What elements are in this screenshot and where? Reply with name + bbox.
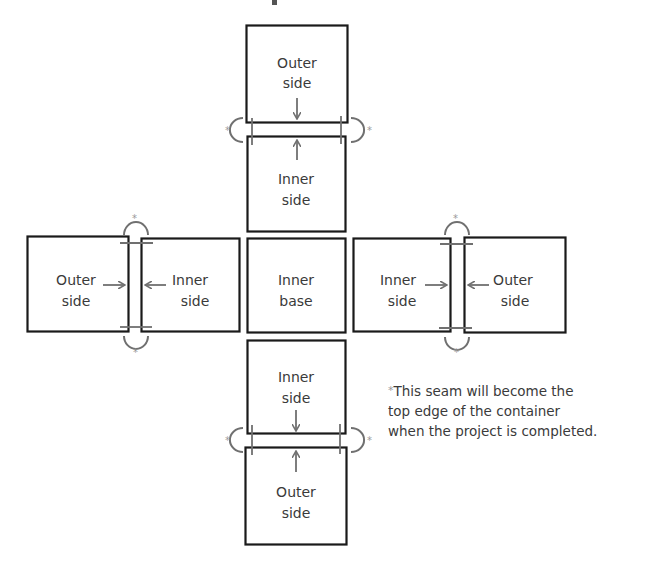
- panel-label: side: [282, 505, 311, 521]
- asterisk-marker: *: [132, 213, 137, 224]
- asterisk-marker: *: [453, 213, 458, 224]
- footnote-text: This seam will become the: [394, 383, 574, 399]
- panel-label: base: [279, 293, 312, 309]
- panel-label: Inner: [278, 272, 314, 288]
- title-fragment: [200, 0, 370, 5]
- panel-label: Outer: [276, 484, 316, 500]
- footnote-line-2: top edge of the container: [388, 401, 647, 421]
- panel-label: side: [501, 293, 530, 309]
- asterisk-marker: *: [367, 125, 372, 136]
- panel-label: side: [283, 75, 312, 91]
- footnote-line-1: *This seam will become the: [388, 381, 647, 401]
- panel-center-base: Inner base: [248, 239, 346, 333]
- panel-label: side: [181, 293, 210, 309]
- panel-label: side: [388, 293, 417, 309]
- panel-label: Outer: [56, 272, 96, 288]
- panel-label: Inner: [278, 171, 314, 187]
- panel-label: Outer: [277, 55, 317, 71]
- footnote-line-3: when the project is completed.: [388, 421, 647, 441]
- asterisk-marker: *: [225, 125, 230, 136]
- panel-label: Outer: [493, 272, 533, 288]
- panel-label: Inner: [278, 369, 314, 385]
- box-net-diagram: Outer side Inner side * * Outer side Inn…: [0, 0, 647, 575]
- panel-label: side: [62, 293, 91, 309]
- panel-left-outer: Outer side: [28, 237, 129, 332]
- panel-label: Inner: [380, 272, 416, 288]
- panel-label: Inner: [172, 272, 208, 288]
- footnote: *This seam will become the top edge of t…: [388, 381, 647, 441]
- asterisk-marker: *: [133, 347, 138, 358]
- asterisk-marker: *: [225, 435, 230, 446]
- panel-label: side: [282, 192, 311, 208]
- asterisk-marker: *: [367, 435, 372, 446]
- panel-label: side: [282, 390, 311, 406]
- asterisk-marker: *: [454, 347, 459, 358]
